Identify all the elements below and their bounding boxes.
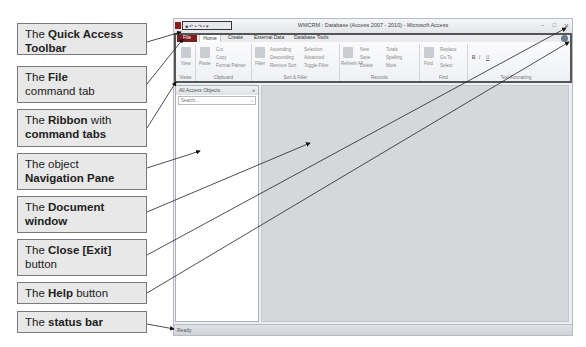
- callout-arrows: [0, 0, 586, 347]
